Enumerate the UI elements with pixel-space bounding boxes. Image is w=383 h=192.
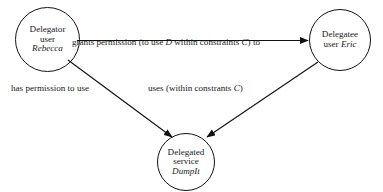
edge-label-grants-permission: grants permission (to use D within const…: [72, 38, 260, 47]
node-delegator-name: Rebecca: [32, 44, 63, 54]
edge-label-grants-middle: within constraints: [172, 37, 241, 47]
node-delegated-service[interactable]: Delegated service DumpIt: [157, 133, 215, 191]
edge-label-grants-suffix: ) to: [248, 37, 260, 47]
edge-uses-within-constraints: [207, 62, 318, 137]
node-delegator[interactable]: Delegator user Rebecca: [15, 7, 80, 72]
node-service-name: DumpIt: [172, 167, 200, 177]
node-delegatee-kind-and-name: user Eric: [323, 40, 356, 50]
edge-has-permission-to-use: [68, 60, 172, 137]
node-delegatee-kind: user: [323, 39, 338, 49]
edge-label-uses: uses (within constrants C): [148, 84, 243, 93]
delegation-diagram: Delegator user Rebecca Delegatee user Er…: [0, 0, 383, 192]
edge-label-has-permission-to-use: has permission to use: [11, 84, 89, 93]
node-delegatee-name: Eric: [341, 39, 357, 49]
edge-label-uses-prefix: uses (within constrants: [148, 83, 234, 93]
edge-label-grants-prefix: grants permission (to use: [72, 37, 165, 47]
edge-label-uses-suffix: ): [240, 83, 243, 93]
node-delegatee[interactable]: Delegatee user Eric: [309, 9, 371, 71]
